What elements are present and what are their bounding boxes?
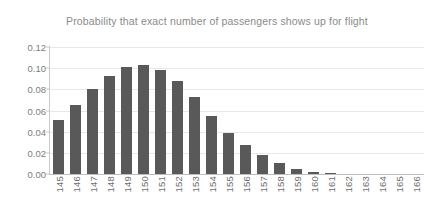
bar-slot (305, 47, 322, 174)
x-slot: 157 (254, 176, 271, 214)
bar[interactable] (172, 81, 183, 174)
x-tick-label: 152 (172, 176, 183, 192)
x-tick-label: 156 (240, 176, 251, 192)
x-tick-label: 149 (121, 176, 132, 192)
x-slot: 149 (118, 176, 135, 214)
bar[interactable] (53, 120, 64, 174)
x-slot: 150 (135, 176, 152, 214)
bar-slot (186, 47, 203, 174)
x-slot: 163 (356, 176, 373, 214)
plot-area (50, 47, 424, 174)
x-slot: 151 (152, 176, 169, 214)
x-slot: 155 (220, 176, 237, 214)
x-slot: 166 (407, 176, 424, 214)
x-tick-label: 162 (342, 176, 353, 192)
x-tick-label: 155 (223, 176, 234, 192)
x-tick-label: 163 (359, 176, 370, 192)
x-slot: 148 (101, 176, 118, 214)
y-tick-label: 0.02 (4, 147, 46, 158)
x-slot: 146 (67, 176, 84, 214)
bar[interactable] (87, 89, 98, 174)
bar-slot (152, 47, 169, 174)
x-tick-label: 151 (155, 176, 166, 192)
x-tick-label: 158 (274, 176, 285, 192)
x-tick-label: 160 (308, 176, 319, 192)
x-tick-label: 154 (206, 176, 217, 192)
x-slot: 164 (373, 176, 390, 214)
bar-slot (288, 47, 305, 174)
bar-slot (203, 47, 220, 174)
x-tick-label: 157 (257, 176, 268, 192)
bar-slot (169, 47, 186, 174)
bar-slot (390, 47, 407, 174)
bar-slot (135, 47, 152, 174)
x-slot: 162 (339, 176, 356, 214)
x-tick-label: 148 (104, 176, 115, 192)
y-tick-label: 0.00 (4, 169, 46, 180)
x-slot: 160 (305, 176, 322, 214)
bar[interactable] (325, 173, 336, 174)
bar[interactable] (104, 76, 115, 174)
bar-slot (67, 47, 84, 174)
x-tick-label: 150 (138, 176, 149, 192)
bar[interactable] (138, 65, 149, 174)
x-slot: 165 (390, 176, 407, 214)
x-slot: 161 (322, 176, 339, 214)
x-tick-label: 164 (376, 176, 387, 192)
y-tick-label: 0.06 (4, 105, 46, 116)
bar-slot (118, 47, 135, 174)
y-tick-label: 0.10 (4, 63, 46, 74)
bar-slot (84, 47, 101, 174)
bar-slot (407, 47, 424, 174)
x-tick-label: 165 (393, 176, 404, 192)
bar[interactable] (189, 97, 200, 174)
x-tick-label: 161 (325, 176, 336, 192)
bar-slot (50, 47, 67, 174)
x-slot: 156 (237, 176, 254, 214)
bar[interactable] (291, 169, 302, 174)
x-tick-label: 145 (53, 176, 64, 192)
bar[interactable] (223, 133, 234, 174)
bar[interactable] (155, 70, 166, 174)
bar-slot (373, 47, 390, 174)
x-tick-label: 146 (70, 176, 81, 192)
x-tick-label: 153 (189, 176, 200, 192)
gridline (50, 174, 424, 175)
x-slot: 154 (203, 176, 220, 214)
bar[interactable] (308, 172, 319, 174)
x-tick-label: 147 (87, 176, 98, 192)
bar-slot (101, 47, 118, 174)
bar-slot (237, 47, 254, 174)
bar[interactable] (121, 67, 132, 174)
x-slot: 145 (50, 176, 67, 214)
y-tick-label: 0.12 (4, 42, 46, 53)
bar[interactable] (257, 155, 268, 174)
x-slot: 159 (288, 176, 305, 214)
bar-slot (339, 47, 356, 174)
x-tick-label: 159 (291, 176, 302, 192)
x-slot: 153 (186, 176, 203, 214)
x-slot: 147 (84, 176, 101, 214)
x-slot: 158 (271, 176, 288, 214)
bar-slot (322, 47, 339, 174)
x-axis-tick-labels: 1451461471481491501511521531541551561571… (50, 176, 424, 214)
bar-slot (356, 47, 373, 174)
bar-slot (220, 47, 237, 174)
bar[interactable] (274, 163, 285, 174)
bar-slot (271, 47, 288, 174)
x-tick-label: 166 (410, 176, 421, 192)
bar[interactable] (240, 145, 251, 174)
y-tick-label: 0.04 (4, 126, 46, 137)
bar-slot (254, 47, 271, 174)
x-slot: 152 (169, 176, 186, 214)
y-tick-label: 0.08 (4, 84, 46, 95)
bar-series (50, 47, 424, 174)
bar[interactable] (206, 116, 217, 174)
bar[interactable] (70, 105, 81, 174)
bar-chart: Probability that exact number of passeng… (0, 0, 434, 214)
chart-title: Probability that exact number of passeng… (0, 15, 434, 27)
